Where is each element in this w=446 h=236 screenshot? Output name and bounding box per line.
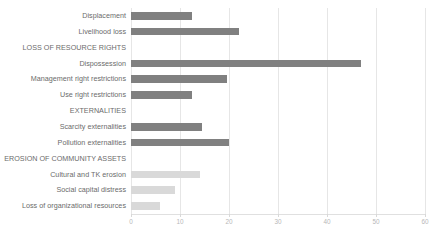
bar-row-label: Livelihood loss bbox=[0, 24, 126, 40]
x-axis-tick-label: 30 bbox=[266, 218, 290, 225]
bar-row: Displacement bbox=[0, 8, 446, 24]
bar-row: Loss of organizational resources bbox=[0, 198, 446, 214]
bar bbox=[131, 75, 227, 83]
category-header-row: EROSION OF COMMUNITY ASSETS bbox=[0, 151, 446, 167]
bar-row-label: Loss of organizational resources bbox=[0, 198, 126, 214]
x-axis-tick-label: 50 bbox=[364, 218, 388, 225]
tick-mark bbox=[278, 214, 279, 217]
tick-mark bbox=[180, 214, 181, 217]
bar bbox=[131, 186, 175, 194]
category-header-label: EROSION OF COMMUNITY ASSETS bbox=[0, 151, 126, 167]
bar bbox=[131, 171, 200, 179]
tick-mark bbox=[425, 214, 426, 217]
category-header-label: LOSS OF RESOURCE RIGHTS bbox=[0, 40, 126, 56]
x-axis-tick-label: 10 bbox=[168, 218, 192, 225]
bar-row-label: Management right restrictions bbox=[0, 71, 126, 87]
category-header-row: LOSS OF RESOURCE RIGHTS bbox=[0, 40, 446, 56]
bar-row: Social capital distress bbox=[0, 182, 446, 198]
bar bbox=[131, 202, 160, 210]
x-axis-tick-label: 40 bbox=[315, 218, 339, 225]
x-axis-tick-label: 0 bbox=[119, 218, 143, 225]
bar-row: Dispossession bbox=[0, 56, 446, 72]
bar-row: Cultural and TK erosion bbox=[0, 167, 446, 183]
tick-mark bbox=[229, 214, 230, 217]
bar-row: Livelihood loss bbox=[0, 24, 446, 40]
bar bbox=[131, 12, 192, 20]
category-header-label: EXTERNALITIES bbox=[0, 103, 126, 119]
x-axis-tick-label: 20 bbox=[217, 218, 241, 225]
tick-mark bbox=[327, 214, 328, 217]
bar-row: Management right restrictions bbox=[0, 71, 446, 87]
bar-row-label: Displacement bbox=[0, 8, 126, 24]
x-axis-tick-label: 60 bbox=[413, 218, 437, 225]
bar-row: Pollution externalities bbox=[0, 135, 446, 151]
bar-row-label: Dispossession bbox=[0, 56, 126, 72]
bar-row: Scarcity externalities bbox=[0, 119, 446, 135]
tick-mark bbox=[376, 214, 377, 217]
bar bbox=[131, 28, 239, 36]
bar bbox=[131, 139, 229, 147]
bar bbox=[131, 123, 202, 131]
bar bbox=[131, 60, 361, 68]
bar-row-label: Use right restrictions bbox=[0, 87, 126, 103]
bar-row-label: Social capital distress bbox=[0, 182, 126, 198]
bar-row-label: Pollution externalities bbox=[0, 135, 126, 151]
category-header-row: EXTERNALITIES bbox=[0, 103, 446, 119]
bar-chart: DisplacementLivelihood lossLOSS OF RESOU… bbox=[0, 0, 446, 236]
bar-row-label: Cultural and TK erosion bbox=[0, 167, 126, 183]
bar-row-label: Scarcity externalities bbox=[0, 119, 126, 135]
bar-row: Use right restrictions bbox=[0, 87, 446, 103]
tick-mark bbox=[131, 214, 132, 217]
bar bbox=[131, 91, 192, 99]
